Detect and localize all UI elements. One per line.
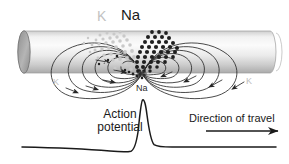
label-sodium-top: Na: [121, 7, 140, 22]
action-potential-figure: K Na K K Na Action potential Direction o…: [0, 0, 289, 164]
label-direction-of-travel: Direction of travel: [189, 113, 275, 124]
label-potassium-right: K: [246, 77, 252, 86]
node-of-ranvier: [137, 71, 147, 77]
field-arrow-left-1: [66, 88, 76, 92]
label-sodium-node: Na: [136, 84, 148, 93]
label-potassium-top: K: [97, 9, 106, 23]
field-arrow-right-2: [211, 80, 222, 86]
field-arrow-left-2: [86, 86, 96, 89]
label-action-potential: Action potential: [89, 108, 151, 135]
axon-right-edge: [276, 33, 282, 71]
field-arrow-right-1: [234, 82, 244, 88]
label-potassium-left: K: [53, 78, 59, 87]
field-arrow-right-3: [186, 76, 196, 81]
axon-left-cap: [18, 31, 30, 73]
